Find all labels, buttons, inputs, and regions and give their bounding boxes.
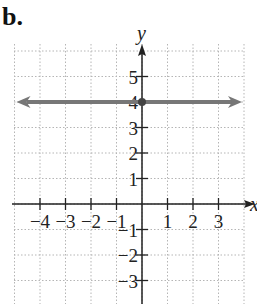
coordinate-plane: −4−3−2−112354321−1−2−3 x y xyxy=(0,0,257,304)
x-tick-label: −2 xyxy=(81,211,101,232)
y-tick-label: 3 xyxy=(129,118,139,139)
y-tick-label: 5 xyxy=(129,67,139,88)
x-tick-label: 3 xyxy=(214,211,224,232)
y-tick-label: −3 xyxy=(118,271,138,292)
y-tick-label: −1 xyxy=(118,220,138,241)
x-axis-label: x xyxy=(249,193,257,215)
y-tick-label: −2 xyxy=(118,245,138,266)
x-tick-label: −3 xyxy=(55,211,75,232)
x-tick-label: 2 xyxy=(188,211,198,232)
y-tick-label: 1 xyxy=(129,169,139,190)
y-tick-label: 2 xyxy=(129,143,139,164)
x-tick-label: 1 xyxy=(163,211,173,232)
y-axis-label: y xyxy=(135,22,146,45)
y-intercept-point xyxy=(138,98,146,106)
x-tick-label: −4 xyxy=(30,211,51,232)
